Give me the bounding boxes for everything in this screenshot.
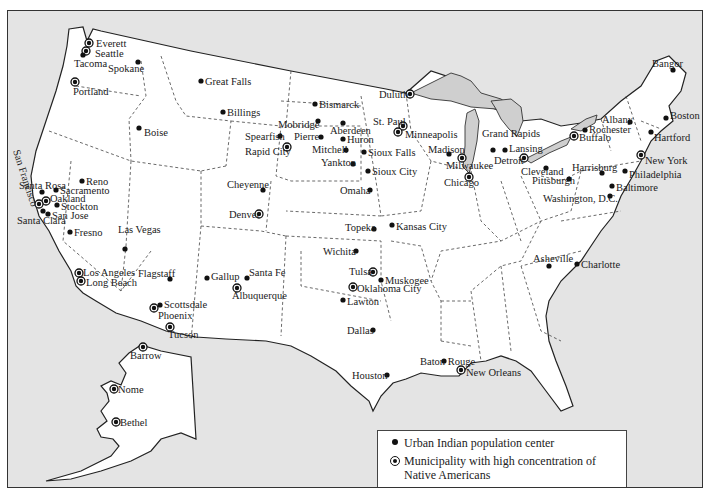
ringed-dot-icon: [390, 456, 400, 466]
city-label: New Orleans: [466, 367, 521, 378]
city-bismarck: Bismarck: [312, 99, 360, 110]
city-baton-rouge: Baton Rouge: [420, 356, 475, 367]
city-label: Las Vegas: [118, 224, 161, 235]
legend-label-high-concentration: Municipality with high concentration of …: [404, 454, 618, 482]
city-label: Nome: [118, 384, 144, 395]
city-label: Duluth: [379, 89, 409, 100]
legend-item-high-concentration: Municipality with high concentration of …: [386, 454, 618, 482]
filled-dot-icon: [340, 297, 345, 302]
city-label: Rapid City: [245, 146, 292, 157]
filled-dot-icon: [54, 202, 59, 207]
filled-dot-icon: [220, 109, 225, 114]
filled-dot-icon: [318, 134, 323, 139]
city-great-falls: Great Falls: [198, 76, 251, 87]
city-barrow: Barrow: [130, 343, 162, 361]
filled-dot-icon: [79, 178, 84, 183]
map-frame: EverettSeattleTacomaSpokanePortlandBoise…: [7, 10, 703, 488]
city-billings: Billings: [220, 107, 260, 118]
city-label: Milwaukee: [446, 160, 494, 171]
city-label: Harrisburg: [572, 162, 618, 173]
city-tulsa: Tulsa: [349, 266, 377, 277]
city-label: Spearfish: [245, 131, 285, 142]
legend-item-urban: Urban Indian population center: [386, 436, 618, 450]
city-label: Baltimore: [616, 182, 658, 193]
filled-dot-icon: [361, 149, 366, 154]
filled-dot-icon: [378, 277, 383, 282]
city-label: Spokane: [108, 63, 145, 74]
city-label: Scottsdale: [164, 299, 207, 310]
city-label: Albany: [602, 114, 634, 125]
city-hartford: Hartford: [648, 129, 691, 143]
city-label: Sioux Falls: [368, 147, 416, 158]
city-label: Oklahoma City: [357, 283, 422, 294]
city-label: Cheyenne: [227, 179, 269, 190]
city-nome: Nome: [110, 384, 144, 395]
city-label: Santa Clara: [17, 215, 66, 226]
city-label: St. Paul: [373, 116, 406, 127]
city-label: Topeka: [345, 222, 376, 233]
city-label: Boston: [670, 110, 701, 121]
filled-dot-icon: [40, 208, 45, 213]
city-label: Baton Rouge: [420, 356, 475, 367]
city-label: Denver: [229, 209, 260, 220]
us-map: EverettSeattleTacomaSpokanePortlandBoise…: [8, 11, 703, 488]
filled-dot-icon: [574, 261, 579, 266]
city-label: Huron: [347, 134, 375, 145]
city-label: Yankton: [321, 157, 357, 168]
filled-dot-icon: [312, 101, 317, 106]
city-topeka: Topeka: [345, 222, 377, 233]
city-mobridge: Mobridge: [278, 118, 321, 130]
city-label: Philadelphia: [629, 169, 682, 180]
city-label: Portland: [73, 86, 109, 97]
city-label: Mitchell: [312, 144, 348, 155]
city-label: Rochester: [589, 124, 631, 135]
filled-dot-icon: [609, 183, 614, 188]
city-label: Madison: [428, 144, 466, 155]
city-label: Bismarck: [319, 99, 360, 110]
filled-dot-icon: [392, 439, 398, 445]
filled-dot-icon: [53, 187, 58, 192]
city-charlotte: Charlotte: [574, 259, 620, 270]
filled-dot-icon: [198, 78, 203, 83]
city-label: Barrow: [130, 350, 162, 361]
city-label: Albuquerque: [232, 290, 287, 301]
city-lansing: Lansing: [502, 143, 543, 154]
city-label: Kansas City: [396, 221, 448, 232]
city-label: Tacoma: [74, 58, 107, 69]
city-sioux-city: Sioux City: [365, 166, 418, 177]
city-rapid-city: Rapid City: [245, 143, 292, 157]
city-lawton: Lawton: [340, 296, 379, 307]
alaska-land: [46, 345, 196, 481]
city-label: Tucson: [168, 329, 199, 340]
filled-dot-icon: [490, 147, 495, 152]
filled-dot-icon: [122, 246, 127, 251]
city-label: Detroit: [494, 155, 524, 166]
city-omaha: Omaha: [340, 185, 373, 196]
city-bethel: Bethel: [112, 417, 147, 428]
city-label: Bethel: [120, 417, 147, 428]
city-new-york: New York: [637, 151, 688, 166]
city-label: Sioux City: [372, 166, 418, 177]
city-label: Hartford: [654, 132, 691, 143]
city-label: New York: [645, 155, 688, 166]
filled-dot-icon: [340, 136, 345, 141]
city-detroit: Detroit: [494, 154, 528, 166]
filled-dot-icon: [648, 129, 653, 134]
city-label: Omaha: [340, 185, 371, 196]
city-kansas-city: Kansas City: [389, 221, 447, 232]
city-label: Phoenix: [158, 310, 193, 321]
city-label: Santa Fe: [249, 267, 286, 278]
filled-dot-icon: [80, 52, 85, 57]
city-label: Long Beach: [86, 277, 138, 288]
city-baltimore: Baltimore: [609, 182, 658, 193]
city-philadelphia: Philadelphia: [622, 168, 681, 180]
city-label: Lansing: [509, 143, 544, 154]
city-long-beach: Long Beach: [77, 277, 138, 288]
filled-dot-icon: [389, 222, 394, 227]
map-legend: Urban Indian population center Municipal…: [377, 430, 627, 488]
filled-dot-icon: [67, 229, 72, 234]
city-label: Charlotte: [581, 259, 620, 270]
city-label: Lawton: [347, 296, 380, 307]
city-pittsburgh: Pittsburgh: [532, 175, 576, 186]
filled-dot-icon: [136, 125, 141, 130]
